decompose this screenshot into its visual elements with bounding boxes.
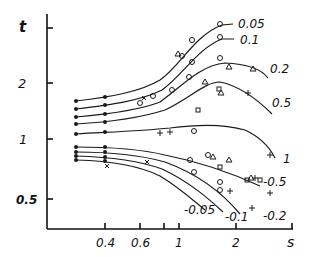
x-tick-label: 1 <box>175 236 183 250</box>
curve-label: -0.2 <box>263 209 286 223</box>
y-tick-label: 0.5 <box>16 193 37 207</box>
y-axis-label: t <box>19 18 27 36</box>
x-tick-label: 0.6 <box>131 236 150 250</box>
curve-label: -0.05 <box>184 203 215 217</box>
curve-0.1 <box>76 39 234 109</box>
curve-label: 0.5 <box>272 96 291 110</box>
x-tick-label: 2 <box>232 236 240 250</box>
y-tick-label: 1 <box>19 132 27 147</box>
y-tick-label: 2 <box>18 76 26 91</box>
curve-label: 0.1 <box>240 33 259 47</box>
curve-label: -0.5 <box>263 175 286 189</box>
curve-label: 0.2 <box>270 62 289 76</box>
curves <box>76 24 275 214</box>
curve-0.2 <box>76 63 268 117</box>
curve-0.05 <box>76 24 233 101</box>
x-axis-label: s <box>287 234 294 250</box>
x-tick-label: 0.4 <box>96 236 115 250</box>
chart: t 2 1 0.5 0.4 0.6 1 2 s <box>0 0 309 257</box>
curve-label: -0.1 <box>225 210 248 224</box>
data-points <box>74 22 273 212</box>
curve-label: 0.05 <box>238 17 265 31</box>
curve-label: 1 <box>283 152 291 166</box>
